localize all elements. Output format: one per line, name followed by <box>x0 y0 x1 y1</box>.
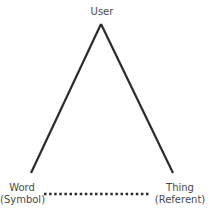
edge-user-thing <box>101 24 173 173</box>
node-word-label: Word (Symbol) <box>0 182 44 206</box>
node-thing-role: (Referent) <box>152 194 208 206</box>
node-word-role: (Symbol) <box>0 194 44 206</box>
node-word-name: Word <box>0 182 44 194</box>
node-user-label: User <box>86 6 118 18</box>
edge-user-word <box>31 24 101 173</box>
node-thing-label: Thing (Referent) <box>152 182 208 206</box>
node-thing-name: Thing <box>152 182 208 194</box>
